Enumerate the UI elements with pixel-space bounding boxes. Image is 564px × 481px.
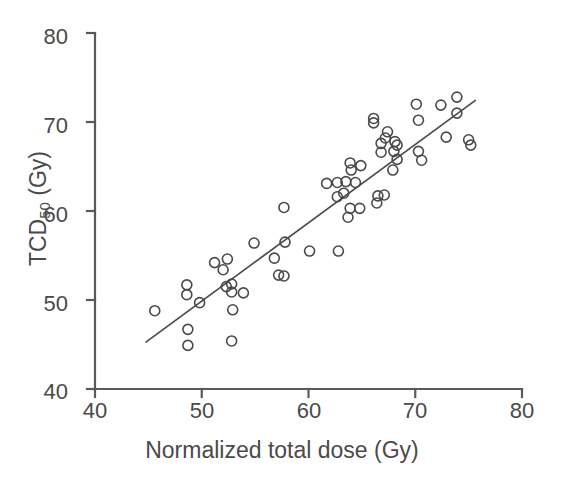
x-tick-label-60: 60 (284, 398, 334, 424)
y-tick-label-40: 40 (22, 379, 68, 405)
data-point-marker (228, 305, 238, 315)
data-point-marker (413, 115, 423, 125)
data-point-marker (210, 258, 220, 268)
data-point-marker (356, 161, 366, 171)
axis-lines (95, 33, 522, 389)
data-point-marker (441, 132, 451, 142)
axis-ticks (87, 33, 522, 397)
x-tick-label-80: 80 (497, 398, 547, 424)
data-point-marker (379, 190, 389, 200)
y-tick-label-80: 80 (22, 24, 68, 50)
data-point-marker (322, 178, 332, 188)
data-point-marker (269, 253, 279, 263)
data-point-marker (238, 288, 248, 298)
data-point-marker (411, 99, 421, 109)
data-point-marker (218, 265, 228, 275)
data-point-marker (388, 165, 398, 175)
y-axis-title-main: TCD (25, 219, 51, 266)
data-point-marker (305, 246, 315, 256)
data-point-marker (452, 92, 462, 102)
x-tick-label-70: 70 (390, 398, 440, 424)
x-axis-title: Normalized total dose (Gy) (0, 437, 564, 464)
data-point-marker (183, 340, 193, 350)
data-point-marker (417, 155, 427, 165)
data-point-marker (436, 100, 446, 110)
data-points (150, 92, 476, 350)
data-point-marker (345, 203, 355, 213)
data-point-marker (182, 280, 192, 290)
x-tick-label-40: 40 (70, 398, 120, 424)
data-point-marker (227, 336, 237, 346)
y-axis-title: TCD50 (Gy) (25, 89, 52, 329)
data-point-marker (333, 246, 343, 256)
data-point-marker (249, 238, 259, 248)
data-point-marker (350, 178, 360, 188)
scatter-plot-figure: 80 70 60 50 40 40 50 60 70 80 Normalized… (0, 0, 564, 481)
data-point-marker (355, 203, 365, 213)
y-axis-title-unit: (Gy) (25, 151, 51, 202)
data-point-marker (183, 324, 193, 334)
x-tick-label-50: 50 (177, 398, 227, 424)
data-point-marker (346, 165, 356, 175)
data-point-marker (182, 290, 192, 300)
data-point-marker (279, 202, 289, 212)
data-point-marker (383, 127, 393, 137)
data-point-marker (222, 254, 232, 264)
y-axis-title-subscript: 50 (36, 202, 53, 219)
data-point-marker (150, 306, 160, 316)
